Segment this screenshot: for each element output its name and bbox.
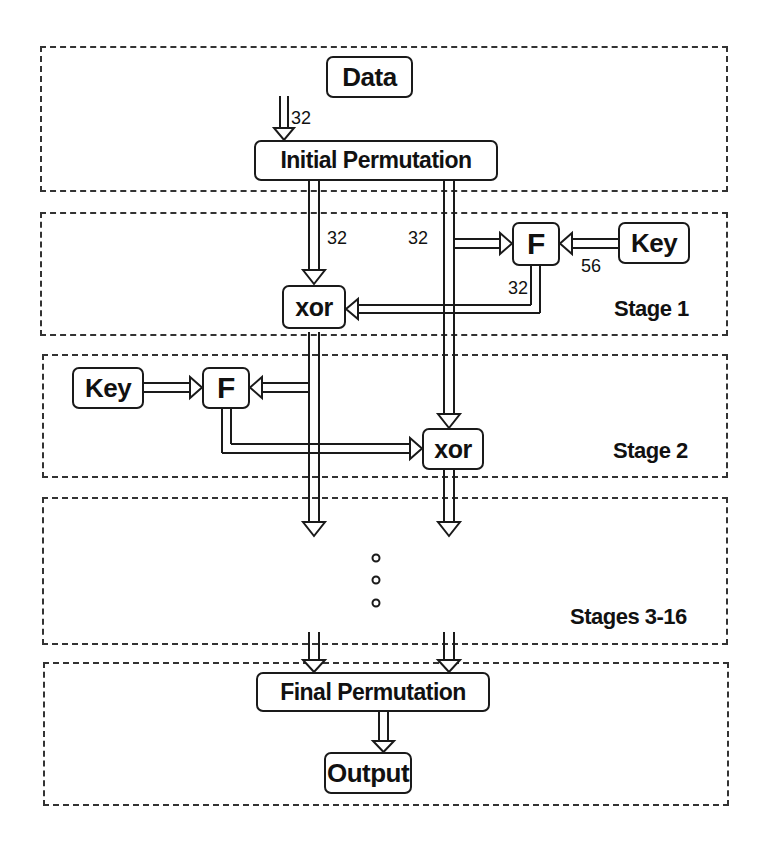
ellipsis-dots — [0, 0, 767, 845]
